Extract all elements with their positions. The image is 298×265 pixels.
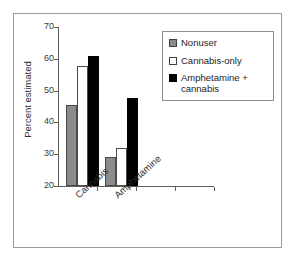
y-tick-label-wrap: 60 (14, 54, 54, 63)
y-tick-label-wrap: 30 (14, 149, 54, 158)
figure-border: Percent estimated 203040506070 CannabisA… (13, 13, 282, 248)
y-tick-label-wrap: 50 (14, 86, 54, 95)
y-tick-label: 70 (28, 22, 54, 31)
legend-label: Nonuser (181, 38, 217, 49)
bar-cannabis-nonuser (66, 105, 77, 186)
y-tick-label-wrap: 20 (14, 181, 54, 190)
x-tick-mark (97, 187, 98, 191)
plot-area: Percent estimated 203040506070 CannabisA… (14, 14, 283, 249)
y-tick-label: 50 (28, 86, 54, 95)
x-tick-mark (175, 187, 176, 191)
y-tick-label: 60 (28, 54, 54, 63)
y-tick-label-wrap: 40 (14, 117, 54, 126)
y-tick-label: 30 (28, 149, 54, 158)
chart-legend: Nonuser Cannabis-only Amphetamine + cann… (162, 31, 274, 101)
y-tick-label: 20 (28, 181, 54, 190)
y-tick-mark (54, 186, 58, 187)
gray-swatch-icon (169, 39, 177, 47)
white-swatch-icon (169, 57, 177, 65)
bar-cannabis-amphetamine-cannabis (88, 56, 99, 186)
bar-cannabis-cannabis-only (77, 66, 88, 186)
chart-figure: Percent estimated 203040506070 CannabisA… (0, 0, 298, 265)
y-tick-label: 40 (28, 117, 54, 126)
legend-label: Amphetamine + cannabis (181, 73, 267, 94)
legend-item-amphetamine-cannabis: Amphetamine + cannabis (169, 73, 267, 94)
black-swatch-icon (169, 74, 177, 82)
legend-item-nonuser: Nonuser (169, 38, 267, 49)
x-tick-mark (136, 187, 137, 191)
x-tick-mark (214, 187, 215, 191)
legend-label: Cannabis-only (181, 56, 242, 67)
y-tick-label-wrap: 70 (14, 22, 54, 31)
legend-item-cannabis-only: Cannabis-only (169, 56, 267, 67)
